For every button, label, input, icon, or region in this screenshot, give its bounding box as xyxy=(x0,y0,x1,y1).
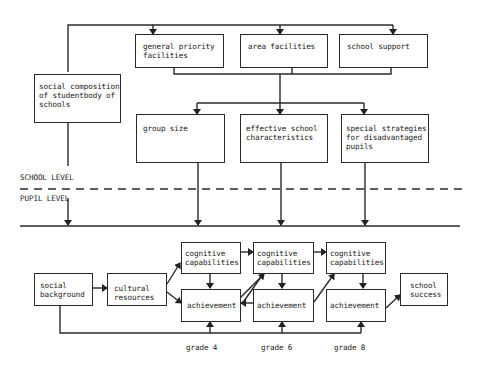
grade-8-label: grade 8 xyxy=(334,343,365,352)
school-success-box: school success xyxy=(400,273,448,306)
group-size-box: group size xyxy=(136,114,225,163)
social-composition-box: social composition of studentbody of sch… xyxy=(34,74,121,123)
grade-6-label: grade 6 xyxy=(261,343,292,352)
cognitive-capabilities-grade6-box: cognitive capabilities xyxy=(253,242,314,274)
cognitive-capabilities-grade4-box: cognitive capabilities xyxy=(181,242,241,274)
cognitive-capabilities-grade8-box: cognitive capabilities xyxy=(326,242,386,274)
social-background-box: social background xyxy=(34,273,93,306)
area-facilities-box: area facilities xyxy=(240,34,328,68)
school-support-box: school support xyxy=(339,34,428,68)
cultural-resources-box: cultural resources xyxy=(107,273,167,306)
special-strategies-box: special strategies for disadvantaged pup… xyxy=(341,114,429,163)
achievement-grade8-box: achievement xyxy=(326,289,386,322)
achievement-grade4-box: achievement xyxy=(181,289,241,322)
pupil-level-label: PUPIL LEVEL xyxy=(20,194,69,203)
general-priority-facilities-box: general priority facilities xyxy=(135,34,224,68)
school-level-label: SCHOOL LEVEL xyxy=(20,173,74,182)
effective-school-characteristics-box: effective school characteristics xyxy=(240,114,328,163)
achievement-grade6-box: achievement xyxy=(253,289,314,322)
grade-4-label: grade 4 xyxy=(186,343,217,352)
